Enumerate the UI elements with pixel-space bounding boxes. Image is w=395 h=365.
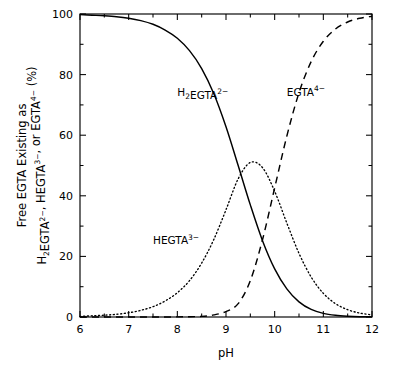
- x-tick-label: 11: [316, 323, 330, 336]
- series-curve-hegta3: [80, 162, 372, 317]
- series-label-egta4: EGTA4−: [287, 84, 325, 98]
- curve-group: [80, 15, 372, 317]
- x-tick-label: 10: [268, 323, 282, 336]
- x-tick-label: 12: [365, 323, 379, 336]
- series-curve-h2egta2: [80, 15, 372, 317]
- axis-group: 6789101112020406080100: [52, 8, 379, 336]
- series-label-hegta3: HEGTA3−: [153, 233, 199, 247]
- series-label-group: H2EGTA2−HEGTA3−EGTA4−: [153, 84, 325, 246]
- y-tick-label: 100: [52, 8, 73, 21]
- x-tick-label: 6: [77, 323, 84, 336]
- egta-speciation-chart: 6789101112020406080100 H2EGTA2−HEGTA3−EG…: [0, 0, 395, 365]
- x-axis-title: pH: [218, 346, 234, 360]
- y-tick-label: 60: [59, 129, 73, 142]
- y-axis-title-line1: Free EGTA Existing as: [15, 104, 29, 228]
- series-label-h2egta2: H2EGTA2−: [177, 86, 228, 101]
- y-tick-label: 20: [59, 250, 73, 263]
- x-tick-label: 8: [174, 323, 181, 336]
- plot-frame: [80, 14, 372, 317]
- chart-figure: 6789101112020406080100 H2EGTA2−HEGTA3−EG…: [0, 0, 395, 365]
- series-curve-egta4: [80, 16, 372, 317]
- y-tick-label: 0: [66, 311, 73, 324]
- x-tick-label: 7: [125, 323, 132, 336]
- y-tick-label: 40: [59, 190, 73, 203]
- y-tick-label: 80: [59, 69, 73, 82]
- x-tick-label: 9: [223, 323, 230, 336]
